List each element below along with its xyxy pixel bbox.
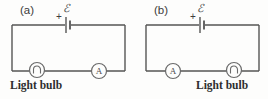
circuit-diagram-figure: (a) ℰ + A <box>0 0 268 99</box>
light-bulb-caption-b: Light bulb <box>196 79 248 91</box>
ammeter-letter-b: A <box>170 66 177 76</box>
ammeter-symbol-b: A <box>166 64 181 79</box>
panel-b: (b) ℰ + A Light bulb <box>134 0 268 99</box>
ammeter-symbol-a: A <box>92 64 107 79</box>
light-bulb-symbol-a <box>30 63 45 78</box>
panel-a: (a) ℰ + A <box>0 0 134 99</box>
light-bulb-caption-a: Light bulb <box>10 79 62 91</box>
light-bulb-symbol-b <box>227 63 242 78</box>
ammeter-letter-a: A <box>96 66 103 76</box>
